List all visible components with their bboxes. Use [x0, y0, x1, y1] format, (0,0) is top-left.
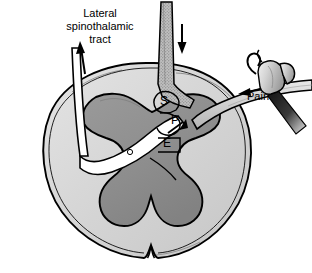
diagram-canvas: Lateral spinothalamic tract: [0, 0, 312, 273]
tract-label-line2: spinothalamic: [66, 20, 134, 32]
neuron-label-s: S: [160, 94, 168, 108]
tract-label-line1: Lateral: [83, 7, 117, 19]
fiber-marker-dot: [127, 149, 132, 154]
tract-label-line3: tract: [89, 33, 110, 45]
